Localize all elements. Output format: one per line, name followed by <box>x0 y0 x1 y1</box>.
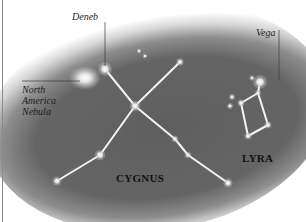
nebula-line-1: North <box>22 84 56 95</box>
star-albireo <box>225 180 231 186</box>
star-lyr-3 <box>266 123 271 128</box>
label-deneb: Deneb <box>72 11 98 22</box>
north-america-nebula-glow <box>69 66 101 90</box>
nebula-line-2: America <box>22 95 56 106</box>
star-cyg-ne <box>178 60 183 65</box>
star-lyr-2 <box>239 101 244 106</box>
star-chart: Deneb Vega North America Nebula CYGNUS L… <box>0 0 306 222</box>
star-lyr-1 <box>256 91 260 95</box>
label-lyra: LYRA <box>242 152 273 164</box>
label-north-america-nebula: North America Nebula <box>22 84 56 117</box>
star-small-b <box>143 54 146 57</box>
label-cygnus: CYGNUS <box>116 172 164 184</box>
star-small-c <box>230 95 234 99</box>
star-cyg-sw2 <box>54 178 60 184</box>
label-vega: Vega <box>256 27 275 38</box>
star-lyr-near <box>250 76 254 80</box>
star-lyr-4 <box>246 134 251 139</box>
nebula-line-3: Nebula <box>22 106 56 117</box>
star-cyg-se2 <box>186 153 190 157</box>
star-small-d <box>228 104 232 108</box>
star-vega <box>256 78 265 87</box>
star-sadr <box>132 103 139 110</box>
frame-edge-line <box>2 0 3 222</box>
star-cyg-se1 <box>173 137 177 141</box>
star-cyg-sw1 <box>97 152 104 159</box>
star-small-a <box>137 49 140 52</box>
